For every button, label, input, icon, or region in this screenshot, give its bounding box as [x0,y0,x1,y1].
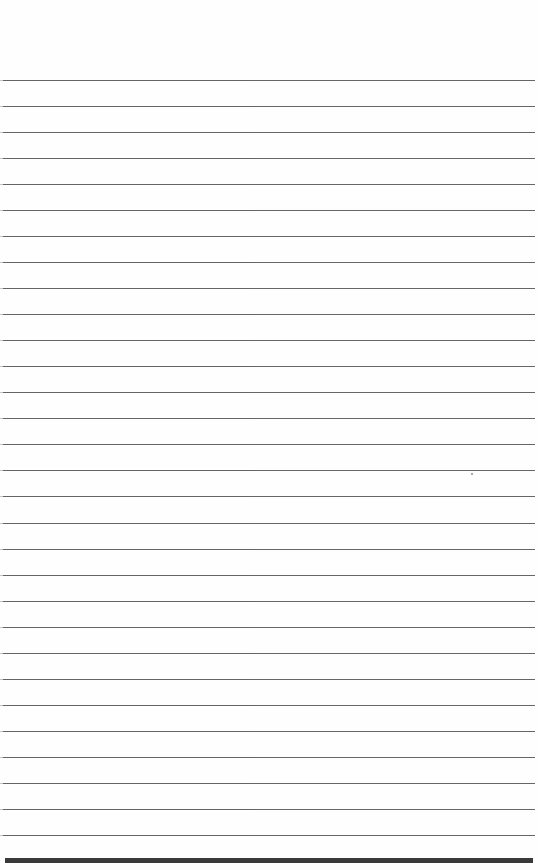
ruled-line [2,705,535,706]
lined-paper-sheet [0,0,538,858]
ruled-line [2,470,535,471]
ruled-line [2,392,535,393]
ruled-line [2,757,535,758]
ruled-line [2,783,535,784]
ruled-line [2,158,535,159]
ruled-line [2,236,535,237]
ruled-line [2,809,535,810]
ruled-line [2,549,535,550]
ruled-line [2,418,535,419]
ruled-line [2,679,535,680]
bottom-dark-edge [5,858,533,863]
ruled-line [2,106,535,107]
ruled-line [2,496,535,497]
ruled-line [2,262,535,263]
ruled-line [2,132,535,133]
ruled-line [2,366,535,367]
ruled-line [2,314,535,315]
ruled-line [2,523,535,524]
ruled-line [2,444,535,445]
ruled-line [2,731,535,732]
ruled-line [2,184,535,185]
ruled-line [2,601,535,602]
ruled-line [2,288,535,289]
ruled-line [2,627,535,628]
ruled-line [2,340,535,341]
ruled-line [2,210,535,211]
paper-speck [471,473,473,475]
ruled-line [2,835,535,836]
ruled-line [2,80,535,81]
ruled-line [2,653,535,654]
ruled-line [2,575,535,576]
